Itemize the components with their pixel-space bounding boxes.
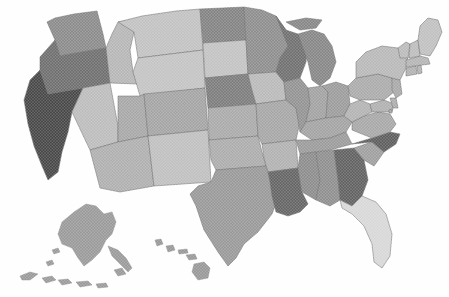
texture-overlay xyxy=(0,0,449,297)
us-choropleth-map xyxy=(0,0,449,297)
us-map-svg xyxy=(0,0,449,297)
